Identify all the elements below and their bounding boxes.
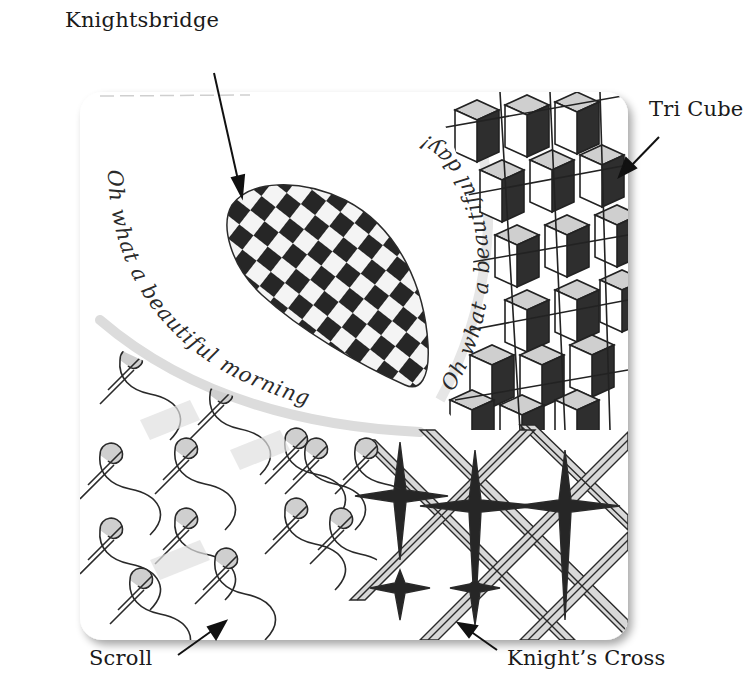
tile-illustration: Oh what a beautiful morning Oh what a be… [0, 0, 744, 679]
label-tri-cube: Tri Cube [649, 97, 744, 121]
label-knightsbridge: Knightsbridge [65, 8, 219, 32]
label-scroll: Scroll [89, 646, 152, 670]
label-knights-cross: Knight’s Cross [507, 646, 666, 670]
